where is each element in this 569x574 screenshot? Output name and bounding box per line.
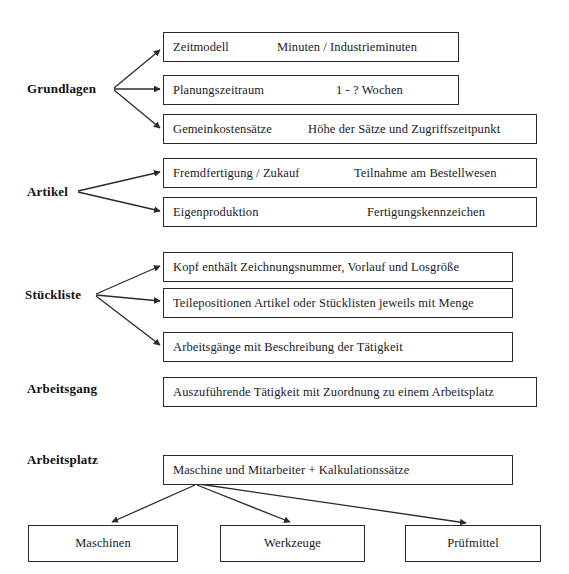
box-planungszeitraum-sub: 1 - ? Wochen bbox=[336, 83, 403, 98]
box-arbeitsgaenge-main: Arbeitsgänge mit Beschreibung der Tätigk… bbox=[164, 340, 403, 355]
edge-stueckliste-teilepositionen bbox=[96, 295, 160, 301]
box-gemeinkostensaetze-sub: Höhe der Sätze und Zugriffszeitpunkt bbox=[308, 122, 500, 137]
box-werkzeuge-label: Werkzeuge bbox=[264, 536, 321, 551]
box-zeitmodell[interactable]: Zeitmodell Minuten / Industrieminuten bbox=[163, 32, 459, 62]
edge-grundlagen-zeitmodell bbox=[114, 50, 160, 88]
box-fremdfertigung[interactable]: Fremdfertigung / Zukauf Teilnahme am Bes… bbox=[163, 158, 537, 188]
edge-arbeitsplatz-werkzeuge bbox=[197, 485, 290, 522]
box-planungszeitraum[interactable]: Planungszeitraum 1 - ? Wochen bbox=[163, 75, 459, 105]
group-label-artikel: Artikel bbox=[27, 184, 68, 200]
box-fremdfertigung-sub: Teilnahme am Bestellwesen bbox=[354, 166, 497, 181]
box-arbeitsgaenge[interactable]: Arbeitsgänge mit Beschreibung der Tätigk… bbox=[163, 332, 513, 362]
box-zeitmodell-sub: Minuten / Industrieminuten bbox=[277, 40, 417, 55]
edge-artikel-fremdfertigung bbox=[78, 172, 160, 191]
edge-arbeitsplatz-pruefmittel bbox=[199, 484, 466, 523]
edge-stueckliste-arbeitsgaenge bbox=[96, 296, 160, 345]
box-eigenproduktion[interactable]: Eigenproduktion Fertigungskennzeichen bbox=[163, 197, 537, 227]
box-maschinen-label: Maschinen bbox=[75, 536, 131, 551]
box-zeitmodell-main: Zeitmodell bbox=[164, 40, 277, 55]
box-auszufuehrende-taetigkeit[interactable]: Auszuführende Tätigkeit mit Zuordnung zu… bbox=[163, 377, 537, 407]
edge-artikel-eigenproduktion bbox=[78, 192, 160, 211]
box-kopf-main: Kopf enthält Zeichnungsnummer, Vorlauf u… bbox=[164, 260, 459, 275]
box-maschine-mitarbeiter[interactable]: Maschine und Mitarbeiter + Kalkulationss… bbox=[163, 455, 513, 485]
box-eigenproduktion-sub: Fertigungskennzeichen bbox=[367, 205, 485, 220]
edge-stueckliste-kopf bbox=[96, 266, 160, 294]
box-auszufuehrende-taetigkeit-main: Auszuführende Tätigkeit mit Zuordnung zu… bbox=[164, 385, 494, 400]
edge-arbeitsplatz-maschinen bbox=[112, 485, 195, 522]
group-label-stueckliste: Stückliste bbox=[25, 287, 81, 303]
box-planungszeitraum-main: Planungszeitraum bbox=[164, 83, 336, 98]
box-teilepositionen[interactable]: Teilepositionen Artikel oder Stücklisten… bbox=[163, 288, 513, 318]
box-fremdfertigung-main: Fremdfertigung / Zukauf bbox=[164, 166, 354, 181]
group-label-grundlagen: Grundlagen bbox=[27, 81, 96, 97]
box-maschine-mitarbeiter-main: Maschine und Mitarbeiter + Kalkulationss… bbox=[164, 463, 409, 478]
box-pruefmittel-label: Prüfmittel bbox=[447, 536, 499, 551]
box-pruefmittel[interactable]: Prüfmittel bbox=[405, 525, 541, 562]
diagram-canvas: Grundlagen Artikel Stückliste Arbeitsgan… bbox=[0, 0, 569, 574]
group-label-arbeitsplatz: Arbeitsplatz bbox=[27, 452, 98, 468]
box-maschinen[interactable]: Maschinen bbox=[28, 525, 178, 562]
box-gemeinkostensaetze-main: Gemeinkostensätze bbox=[164, 122, 308, 137]
box-kopf[interactable]: Kopf enthält Zeichnungsnummer, Vorlauf u… bbox=[163, 252, 513, 282]
box-teilepositionen-main: Teilepositionen Artikel oder Stücklisten… bbox=[164, 296, 474, 311]
group-label-arbeitsgang: Arbeitsgang bbox=[27, 381, 97, 397]
box-gemeinkostensaetze[interactable]: Gemeinkostensätze Höhe der Sätze und Zug… bbox=[163, 114, 537, 144]
box-eigenproduktion-main: Eigenproduktion bbox=[164, 205, 367, 220]
edge-grundlagen-gemeinkostensaetze bbox=[114, 90, 160, 128]
box-werkzeuge[interactable]: Werkzeuge bbox=[220, 525, 365, 562]
